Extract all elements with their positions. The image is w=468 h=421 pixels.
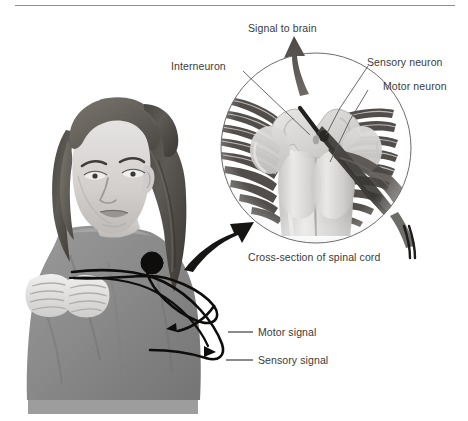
receptor-node — [141, 252, 163, 274]
label-sensory-neuron: Sensory neuron — [367, 56, 443, 68]
label-motor-neuron: Motor neuron — [383, 80, 447, 92]
label-signal-to-brain: Signal to brain — [248, 22, 317, 34]
magnifier-pointer-arrow — [184, 222, 254, 272]
label-cross-section-of-spinal-cord: Cross-section of spinal cord — [248, 251, 380, 263]
label-motor-signal: Motor signal — [258, 326, 316, 338]
girl-figure — [26, 97, 201, 414]
label-interneuron: Interneuron — [171, 60, 226, 72]
label-sensory-signal: Sensory signal — [258, 354, 328, 366]
